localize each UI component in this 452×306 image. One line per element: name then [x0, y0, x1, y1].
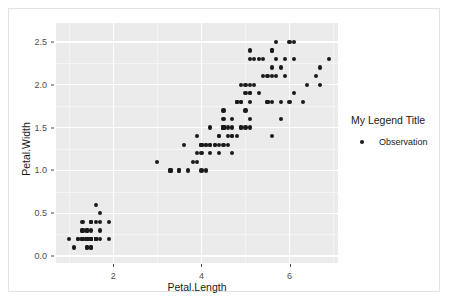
data-point — [89, 245, 93, 249]
gridline — [289, 23, 290, 263]
gridline — [56, 192, 338, 193]
x-tick-label: 2 — [111, 271, 116, 281]
legend-key — [354, 135, 370, 149]
x-tick-label: 6 — [287, 271, 292, 281]
x-tick-mark — [201, 264, 202, 267]
legend-item-observation[interactable]: Observation — [351, 135, 439, 149]
data-point — [274, 74, 278, 78]
gridline — [56, 234, 338, 235]
data-point — [261, 74, 265, 78]
data-point — [89, 228, 93, 232]
gridline — [69, 23, 70, 263]
data-point — [94, 237, 98, 241]
data-point — [327, 57, 331, 61]
gridline — [245, 23, 246, 263]
data-point — [85, 237, 89, 241]
y-tick-mark — [51, 127, 54, 128]
data-point — [221, 117, 225, 121]
y-tick-label: 2.5 — [34, 37, 47, 47]
figure-card: 0.00.51.01.52.02.5 246 Petal.Width Petal… — [8, 8, 440, 292]
legend: My Legend Title Observation — [351, 114, 439, 149]
data-point — [248, 125, 252, 129]
data-point — [217, 143, 221, 147]
gridline — [56, 106, 338, 107]
gridline — [56, 170, 338, 171]
legend-title: My Legend Title — [351, 114, 439, 126]
data-point — [155, 160, 159, 164]
data-point — [305, 83, 309, 87]
data-point — [265, 100, 269, 104]
data-point — [221, 108, 225, 112]
data-point — [208, 125, 212, 129]
data-point — [199, 143, 203, 147]
y-tick-label: 0.0 — [34, 251, 47, 261]
point-marker-icon — [360, 140, 364, 144]
data-point — [287, 100, 291, 104]
data-point — [98, 228, 102, 232]
y-tick-mark — [51, 84, 54, 85]
data-point — [195, 134, 199, 138]
data-point — [314, 74, 318, 78]
x-tick-mark — [290, 264, 291, 267]
y-axis-title: Petal.Width — [20, 79, 32, 219]
data-point — [230, 151, 234, 155]
data-point — [80, 228, 84, 232]
data-point — [213, 143, 217, 147]
data-point — [279, 100, 283, 104]
plot-panel — [56, 23, 338, 263]
gridline — [56, 84, 338, 85]
data-point — [230, 117, 234, 121]
data-point — [204, 168, 208, 172]
y-tick-label: 0.5 — [34, 208, 47, 218]
data-point — [195, 160, 199, 164]
y-tick-mark — [51, 256, 54, 257]
data-point — [94, 203, 98, 207]
data-point — [85, 228, 89, 232]
gridline — [56, 149, 338, 150]
data-point — [252, 57, 256, 61]
data-point — [226, 143, 230, 147]
data-point — [85, 245, 89, 249]
y-tick-label: 1.0 — [34, 165, 47, 175]
data-point — [279, 65, 283, 69]
x-tick-mark — [113, 264, 114, 267]
data-point — [301, 100, 305, 104]
data-point — [80, 237, 84, 241]
y-tick-mark — [51, 41, 54, 42]
gridline — [56, 127, 338, 128]
data-point — [208, 143, 212, 147]
gridline — [157, 23, 158, 263]
data-point — [226, 134, 230, 138]
data-point — [230, 125, 234, 129]
data-point — [230, 134, 234, 138]
data-point — [283, 57, 287, 61]
data-point — [107, 220, 111, 224]
data-point — [191, 160, 195, 164]
data-point — [199, 151, 203, 155]
data-point — [261, 57, 265, 61]
data-point — [318, 65, 322, 69]
data-point — [89, 220, 93, 224]
gridline — [113, 23, 114, 263]
data-point — [248, 91, 252, 95]
legend-item-label: Observation — [379, 137, 428, 147]
data-point — [283, 74, 287, 78]
data-point — [270, 100, 274, 104]
data-point — [98, 237, 102, 241]
data-point — [80, 220, 84, 224]
scatter-plot: 0.00.51.01.52.02.5 246 Petal.Width Petal… — [9, 9, 441, 293]
y-tick-mark — [51, 213, 54, 214]
data-point — [252, 83, 256, 87]
data-point — [217, 151, 221, 155]
data-point — [221, 143, 225, 147]
data-point — [248, 48, 252, 52]
data-point — [257, 91, 261, 95]
data-point — [235, 100, 239, 104]
data-point — [243, 83, 247, 87]
data-point — [67, 237, 71, 241]
data-point — [270, 134, 274, 138]
data-point — [274, 40, 278, 44]
data-point — [292, 91, 296, 95]
data-point — [177, 168, 181, 172]
data-point — [239, 83, 243, 87]
